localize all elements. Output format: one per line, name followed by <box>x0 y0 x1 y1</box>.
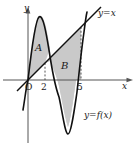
region-b-shading <box>45 27 81 127</box>
math-figure: y x O 2 5 A B y=x y=f(x) <box>0 0 136 146</box>
region-a-label: A <box>35 43 42 53</box>
origin-label: O <box>25 83 32 92</box>
x-tick-label-5: 5 <box>77 83 83 92</box>
figure-canvas <box>0 0 136 146</box>
curve-equation-label: y=f(x) <box>84 111 112 120</box>
line-equation-label: y=x <box>98 9 116 18</box>
region-b-label: B <box>61 61 68 71</box>
x-tick-label-2: 2 <box>41 83 47 92</box>
x-axis-label: x <box>122 82 127 91</box>
y-axis-label: y <box>24 4 29 13</box>
